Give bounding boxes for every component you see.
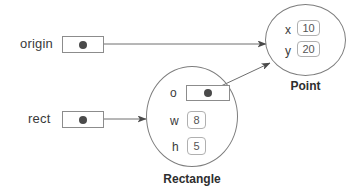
rectangle-attr-name-h: h [172, 140, 179, 154]
point-class-caption: Point [265, 79, 346, 93]
reference-dot-icon [204, 89, 212, 97]
point-attr-name-y: y [285, 44, 291, 58]
rectangle-attr-value-h[interactable]: 5 [187, 137, 206, 155]
reference-dot-icon [79, 116, 87, 124]
rectangle-attr-name-w: w [170, 114, 179, 128]
reference-dot-icon [79, 41, 87, 49]
point-attr-value-y[interactable]: 20 [297, 41, 320, 57]
origin-ref-box[interactable] [62, 36, 104, 53]
rectangle-class-caption: Rectangle [146, 172, 238, 186]
rectangle-o-ref-box[interactable] [186, 85, 230, 101]
variable-label-origin: origin [20, 36, 53, 51]
rect-ref-box[interactable] [62, 111, 104, 128]
object-reference-diagram: origin rect x 10 y 20 Point o w 8 h 5 Re… [0, 0, 353, 196]
rectangle-attr-value-w[interactable]: 8 [187, 111, 206, 129]
point-object[interactable] [265, 4, 346, 76]
point-attr-value-x[interactable]: 10 [297, 20, 320, 36]
point-attr-name-x: x [285, 23, 291, 37]
rectangle-attr-name-o: o [170, 86, 177, 100]
variable-label-rect: rect [28, 111, 50, 126]
